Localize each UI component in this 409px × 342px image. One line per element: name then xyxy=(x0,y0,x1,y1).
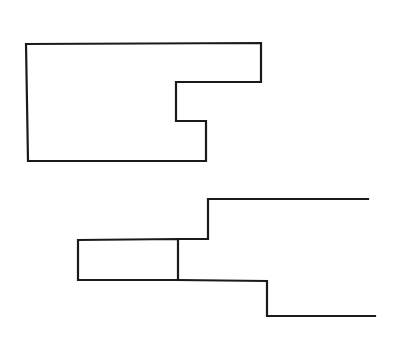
lower-upper-stepped-line xyxy=(178,199,368,239)
diagram-canvas xyxy=(0,0,409,342)
upper-notched-outline xyxy=(26,43,261,161)
lower-left-box xyxy=(78,239,178,280)
lower-lower-stepped-line xyxy=(178,280,375,316)
